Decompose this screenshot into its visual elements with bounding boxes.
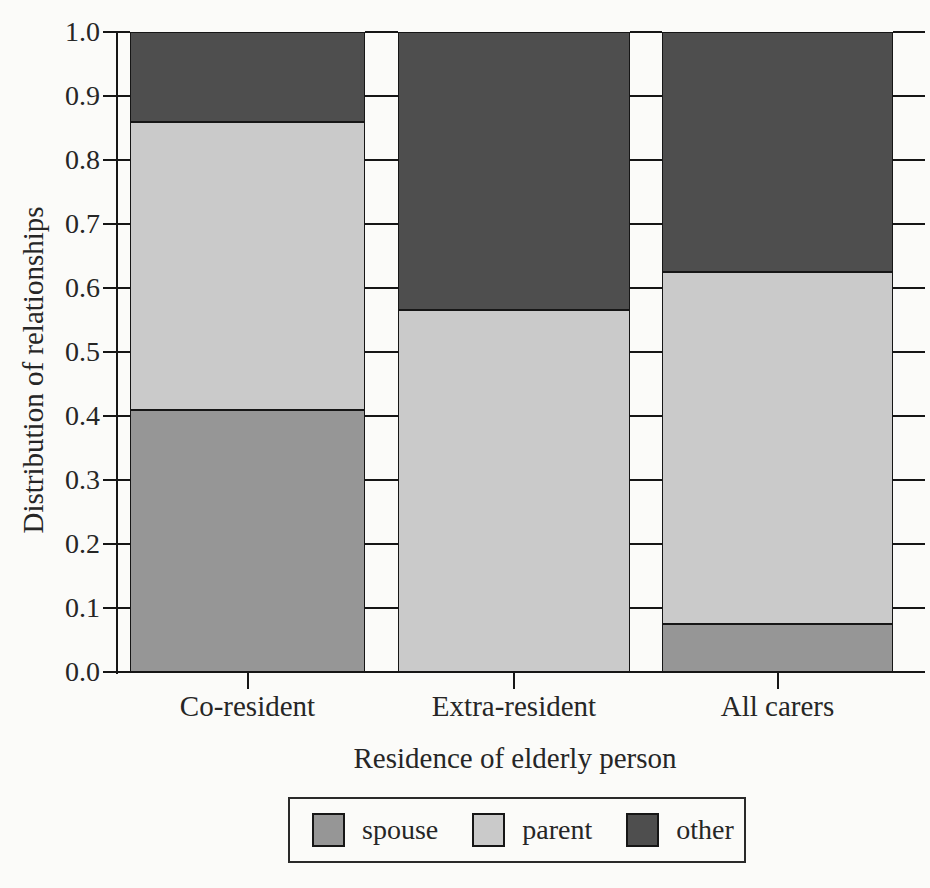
gap-tick [630, 351, 662, 353]
x-tick [513, 672, 515, 689]
y-tick-right [893, 287, 925, 289]
bar-segment-spouse [130, 410, 365, 672]
legend-label-spouse: spouse [362, 814, 438, 846]
y-axis-line [116, 32, 118, 674]
legend-swatch-other [626, 813, 659, 847]
legend-swatch-parent [472, 813, 505, 847]
y-tick-label: 0.8 [32, 145, 100, 175]
bar-segment-other [662, 32, 893, 272]
y-tick-left [103, 31, 130, 33]
y-tick-label: 0.7 [32, 209, 100, 239]
gap-tick [365, 415, 398, 417]
gap-tick [365, 31, 398, 33]
y-tick-left [103, 223, 130, 225]
y-tick-label: 0.2 [32, 529, 100, 559]
y-tick-left [103, 671, 130, 673]
y-tick-right [893, 415, 925, 417]
gap-tick [630, 223, 662, 225]
y-tick-left [103, 287, 130, 289]
gap-tick [630, 95, 662, 97]
gap-tick [365, 95, 398, 97]
gap-tick [630, 543, 662, 545]
gap-tick [630, 607, 662, 609]
gap-tick [630, 159, 662, 161]
y-tick-right [893, 543, 925, 545]
plot-area: 0.00.10.20.30.40.50.60.70.80.91.0Co-resi… [0, 0, 930, 730]
y-tick-right [893, 95, 925, 97]
gap-tick [365, 223, 398, 225]
y-tick-label: 0.0 [32, 657, 100, 687]
bar-segment-parent [130, 122, 365, 410]
gap-tick [365, 543, 398, 545]
gap-tick [365, 159, 398, 161]
y-tick-right [893, 351, 925, 353]
x-tick [247, 672, 249, 689]
bar-segment-other [130, 32, 365, 122]
bar-segment-other [398, 32, 630, 310]
gap-tick [365, 351, 398, 353]
gap-tick [365, 287, 398, 289]
stacked-bar-chart-figure: Distribution of relationships 0.00.10.20… [0, 0, 930, 888]
y-tick-left [103, 159, 130, 161]
gap-tick [630, 415, 662, 417]
x-axis-title: Residence of elderly person [117, 742, 913, 775]
y-tick-left [103, 95, 130, 97]
bar-segment-parent [398, 310, 630, 672]
y-tick-label: 0.5 [32, 337, 100, 367]
y-tick-label: 1.0 [32, 17, 100, 47]
y-tick-right [893, 31, 925, 33]
y-tick-label: 0.6 [32, 273, 100, 303]
y-tick-left [103, 415, 130, 417]
y-tick-left [103, 479, 130, 481]
y-tick-label: 0.1 [32, 593, 100, 623]
legend-label-other: other [676, 814, 734, 846]
bar-segment-parent [662, 272, 893, 624]
y-tick-left [103, 543, 130, 545]
legend-item-other: other [626, 813, 734, 847]
category-label: Extra-resident [394, 690, 634, 722]
y-tick-label: 0.3 [32, 465, 100, 495]
category-label: Co-resident [128, 690, 368, 722]
y-tick-right [893, 223, 925, 225]
x-tick [777, 672, 779, 689]
legend: spouse parent other [288, 797, 746, 863]
y-tick-right [893, 607, 925, 609]
gap-tick [365, 479, 398, 481]
legend-item-parent: parent [472, 813, 592, 847]
gap-tick [365, 607, 398, 609]
y-tick-right [893, 159, 925, 161]
y-tick-left [103, 607, 130, 609]
legend-item-spouse: spouse [312, 813, 438, 847]
y-tick-left [103, 351, 130, 353]
y-tick-right [893, 671, 925, 673]
legend-label-parent: parent [522, 814, 592, 846]
bar-segment-spouse [662, 624, 893, 672]
category-label: All carers [658, 690, 898, 722]
gap-tick [630, 31, 662, 33]
y-tick-label: 0.4 [32, 401, 100, 431]
y-tick-label: 0.9 [32, 81, 100, 111]
gap-tick [630, 479, 662, 481]
legend-swatch-spouse [312, 813, 345, 847]
gap-tick [630, 287, 662, 289]
y-tick-right [893, 479, 925, 481]
